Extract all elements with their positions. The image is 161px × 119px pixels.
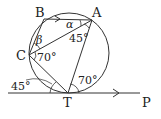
angle-alpha: α [66,18,74,31]
angle-45-T: 45° [11,80,31,93]
angle-70-T: 70° [78,74,98,87]
geometry-diagram: B A C T P α 45° β 70° 70° 45° [0,0,161,119]
angle-70-C: 70° [37,51,57,64]
arc-45-A [84,24,89,28]
arc-alpha [80,20,81,26]
label-C: C [16,48,26,63]
label-T: T [63,95,72,110]
label-P: P [142,95,151,110]
label-A: A [91,5,102,20]
arc-70-C [34,52,36,60]
angle-beta: β [35,34,42,47]
label-B: B [35,5,45,20]
angle-45-A: 45° [69,32,89,45]
